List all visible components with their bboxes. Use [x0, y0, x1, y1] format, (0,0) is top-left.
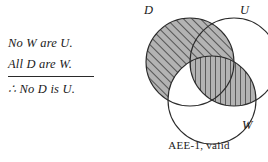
circle-label-w: W: [242, 118, 252, 133]
circle-label-u: U: [240, 3, 249, 18]
conclusion: ∴ No D is U.: [8, 77, 120, 100]
syllogism-block: No W are U. All D are W. ∴ No D is U.: [8, 33, 120, 100]
venn-diagram: D U W AEE-1, valid: [130, 0, 268, 162]
premise-major: No W are U.: [8, 33, 120, 54]
circle-label-d: D: [144, 3, 153, 18]
figure-panel: No W are U. All D are W. ∴ No D is U.: [0, 0, 268, 162]
premise-minor: All D are W.: [8, 54, 94, 77]
figure-caption: AEE-1, valid: [130, 139, 268, 151]
